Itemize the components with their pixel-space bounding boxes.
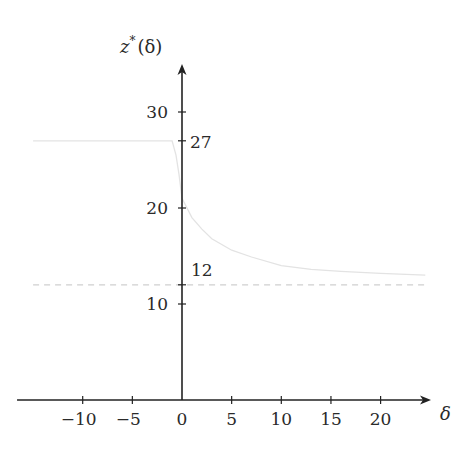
x-tick-label: −10 xyxy=(61,409,97,429)
axes-layer xyxy=(17,64,431,405)
x-tick-label: 5 xyxy=(226,409,237,429)
x-axis-label: δ xyxy=(440,403,451,424)
curve-line xyxy=(33,141,425,275)
x-tick-label: 20 xyxy=(370,409,392,429)
x-tick-label: 10 xyxy=(270,409,292,429)
x-tick-label: 15 xyxy=(320,409,342,429)
x-tick-label: 0 xyxy=(177,409,188,429)
annotation-12: 12 xyxy=(191,260,213,280)
y-tick-label: 30 xyxy=(146,102,168,122)
chart: −10−505101520102030 z*(δ) δ 27 12 xyxy=(0,0,473,456)
y-tick-label: 10 xyxy=(146,294,168,314)
series-layer xyxy=(33,141,425,285)
y-tick-label: 20 xyxy=(146,198,168,218)
ticks-layer: −10−505101520102030 xyxy=(61,102,392,429)
y-axis-label: z*(δ) xyxy=(119,34,162,57)
annotation-27: 27 xyxy=(190,132,212,152)
x-tick-label: −5 xyxy=(116,409,141,429)
